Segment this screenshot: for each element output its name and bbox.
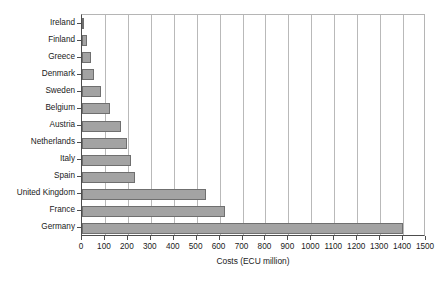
bar-row	[82, 152, 426, 169]
x-axis-tick	[425, 236, 426, 240]
y-axis-label-france: France	[0, 205, 75, 215]
bar-row	[82, 49, 426, 66]
x-axis-tick-label-1100: 1100	[324, 241, 342, 252]
bar-chart: IrelandFinlandGreeceDenmarkSwedenBelgium…	[0, 0, 448, 284]
bar-netherlands	[82, 138, 127, 149]
y-axis-label-spain: Spain	[0, 171, 75, 181]
bar-ireland	[82, 18, 84, 29]
bar-row	[82, 203, 426, 220]
x-axis-tick-label-1200: 1200	[347, 241, 365, 252]
y-axis-label-belgium: Belgium	[0, 103, 75, 113]
bar-greece	[82, 52, 91, 63]
y-axis-label-italy: Italy	[0, 154, 75, 164]
x-axis-tick-label-1400: 1400	[393, 241, 411, 252]
x-axis-tick	[173, 236, 174, 240]
bar-france	[82, 206, 225, 217]
bar-sweden	[82, 86, 101, 97]
x-axis-tick-label-1300: 1300	[370, 241, 388, 252]
bar-spain	[82, 172, 135, 183]
x-axis-title: Costs (ECU million)	[81, 256, 425, 266]
bar-series	[82, 15, 424, 235]
bar-italy	[82, 155, 131, 166]
x-axis-tick-labels: 0100200300400500600700800900100011001200…	[0, 241, 448, 253]
y-axis-label-germany: Germany	[0, 222, 75, 232]
x-axis-tick-label-600: 600	[212, 241, 226, 252]
x-axis-tick	[219, 236, 220, 240]
bar-finland	[82, 35, 87, 46]
plot-area	[81, 14, 425, 236]
x-axis-tick	[402, 236, 403, 240]
y-axis-label-ireland: Ireland	[0, 18, 75, 28]
x-axis-tick-label-100: 100	[97, 241, 111, 252]
x-axis-tick	[333, 236, 334, 240]
y-axis-label-finland: Finland	[0, 35, 75, 45]
x-axis-tick-label-0: 0	[79, 241, 84, 252]
x-axis-tick-label-300: 300	[143, 241, 157, 252]
x-axis-tick	[310, 236, 311, 240]
y-axis-label-united-kingdom: United Kingdom	[0, 188, 75, 198]
bar-denmark	[82, 69, 94, 80]
x-axis-tick	[356, 236, 357, 240]
x-axis-tick	[127, 236, 128, 240]
x-axis-tick-label-500: 500	[189, 241, 203, 252]
x-axis-tick	[287, 236, 288, 240]
y-axis-category-labels: IrelandFinlandGreeceDenmarkSwedenBelgium…	[0, 14, 75, 236]
x-axis-tick-label-700: 700	[235, 241, 249, 252]
x-axis-tick	[81, 236, 82, 240]
x-axis-tick	[264, 236, 265, 240]
x-axis-tick-label-1000: 1000	[301, 241, 319, 252]
bar-row	[82, 186, 426, 203]
x-axis-tick-label-200: 200	[120, 241, 134, 252]
y-axis-label-netherlands: Netherlands	[0, 137, 75, 147]
x-axis-tick	[379, 236, 380, 240]
x-axis-tick	[196, 236, 197, 240]
bar-united-kingdom	[82, 189, 206, 200]
bar-row	[82, 169, 426, 186]
bar-row	[82, 66, 426, 83]
y-axis-label-denmark: Denmark	[0, 69, 75, 79]
bar-row	[82, 32, 426, 49]
bar-row	[82, 15, 426, 32]
bar-belgium	[82, 103, 110, 114]
x-axis-tick-label-1500: 1500	[416, 241, 434, 252]
y-axis-label-austria: Austria	[0, 120, 75, 130]
x-axis-tick-label-900: 900	[281, 241, 295, 252]
bar-row	[82, 100, 426, 117]
x-axis-tick	[104, 236, 105, 240]
bar-row	[82, 220, 426, 237]
y-axis-label-sweden: Sweden	[0, 86, 75, 96]
bar-germany	[82, 223, 403, 234]
y-axis-label-greece: Greece	[0, 52, 75, 62]
bar-row	[82, 135, 426, 152]
x-axis-tick	[242, 236, 243, 240]
bar-row	[82, 118, 426, 135]
x-axis-tick-label-800: 800	[258, 241, 272, 252]
x-axis-tick	[150, 236, 151, 240]
bar-row	[82, 83, 426, 100]
x-axis-tick-label-400: 400	[166, 241, 180, 252]
bar-austria	[82, 121, 121, 132]
